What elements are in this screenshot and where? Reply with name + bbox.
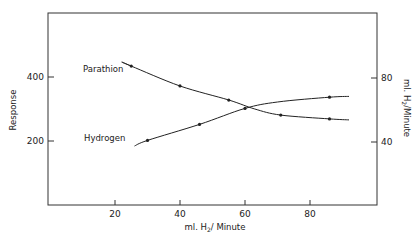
data-point [178, 84, 181, 87]
x-axis-title: ml. H2/ Minute [185, 222, 246, 233]
y-axis-left: 200 400 Response [8, 72, 54, 146]
data-point [328, 117, 331, 120]
data-point [279, 113, 282, 116]
series-parathion-points [130, 65, 331, 121]
label-hydrogen: Hydrogen [84, 133, 125, 143]
data-point [243, 107, 246, 110]
x-tick-80: 80 [304, 209, 316, 219]
x-tick-40: 40 [174, 209, 186, 219]
data-point [146, 139, 149, 142]
chart: 20 40 60 80 ml. H2/ Minute 200 400 Respo… [0, 0, 414, 238]
data-point [130, 65, 133, 68]
y2-axis-title: ml. H2/Minute [401, 79, 412, 137]
x-tick-60: 60 [239, 209, 251, 219]
x-tick-20: 20 [109, 209, 121, 219]
plot-frame [48, 13, 377, 205]
y-tick-200: 200 [27, 136, 44, 146]
arrow-parathion [122, 62, 131, 66]
series-hydrogen-points [146, 96, 331, 142]
y-axis-title: Response [8, 90, 18, 131]
y2-tick-40: 40 [381, 137, 393, 147]
series-hydrogen-line [135, 96, 350, 146]
data-point [198, 123, 201, 126]
y2-tick-80: 80 [381, 73, 393, 83]
y-tick-400: 400 [27, 72, 44, 82]
data-point [328, 96, 331, 99]
data-point [227, 98, 230, 101]
label-parathion: Parathion [83, 64, 123, 74]
